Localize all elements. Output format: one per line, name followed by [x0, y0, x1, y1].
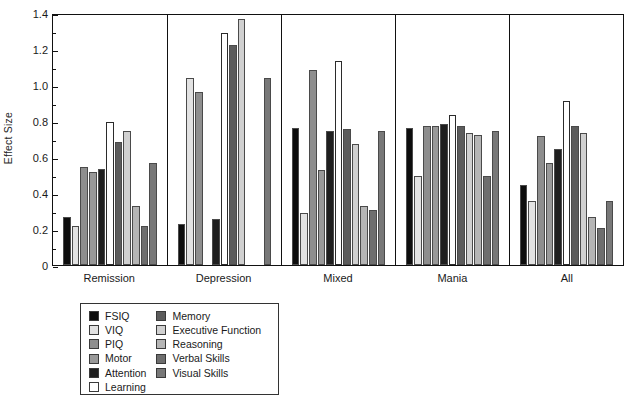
y-tick-label: 1.2	[22, 45, 48, 56]
bar-remission-visual-skills	[149, 163, 157, 265]
legend-swatch-icon	[89, 311, 99, 321]
y-tick-minor	[53, 177, 56, 178]
bar-all-executive-function	[580, 133, 588, 265]
bar-all-motor	[546, 163, 554, 265]
legend-swatch-icon	[89, 354, 99, 364]
y-tick-label: 0.8	[22, 117, 48, 128]
legend-item-attention: Attention	[89, 366, 146, 380]
bar-mixed-attention	[326, 131, 334, 265]
x-group-label: Depression	[166, 272, 280, 284]
bar-mixed-learning	[335, 61, 343, 265]
bar-remission-verbal-skills	[141, 226, 149, 265]
legend-item-piq: PIQ	[89, 337, 146, 351]
plot-axes	[52, 14, 624, 266]
legend-item-motor: Motor	[89, 352, 146, 366]
legend-swatch-icon	[156, 368, 166, 378]
plot-area-wrapper: Effect Size 00.20.40.60.81.01.21.4 Remis…	[0, 0, 631, 300]
bar-mixed-fsiq	[292, 128, 300, 266]
bar-mania-reasoning	[474, 135, 482, 265]
bar-mania-attention	[440, 124, 448, 265]
x-group-label: Remission	[52, 272, 166, 284]
y-tick-major	[53, 87, 58, 88]
bar-remission-viq	[72, 226, 80, 265]
bar-mixed-motor	[318, 170, 326, 265]
legend-swatch-icon	[156, 325, 166, 335]
bar-mania-executive-function	[466, 133, 474, 265]
legend-item-memory: Memory	[156, 309, 261, 323]
bar-mixed-viq	[300, 213, 308, 265]
bar-group-remission	[53, 15, 167, 265]
legend-swatch-icon	[156, 339, 166, 349]
legend-label: VIQ	[105, 325, 123, 336]
x-group-label: All	[510, 272, 624, 284]
bar-depression-executive-function	[238, 19, 246, 265]
y-tick-label: 0.2	[22, 225, 48, 236]
legend-label: Memory	[172, 311, 210, 322]
legend-label: Attention	[105, 368, 146, 379]
y-tick-label: 1.4	[22, 9, 48, 20]
legend-swatch-icon	[89, 325, 99, 335]
legend-item-visual-skills: Visual Skills	[156, 366, 261, 380]
legend-item-verbal-skills: Verbal Skills	[156, 352, 261, 366]
y-tick-minor	[53, 69, 56, 70]
bar-remission-piq	[80, 167, 88, 265]
bar-chart-figure: Effect Size 00.20.40.60.81.01.21.4 Remis…	[0, 0, 631, 410]
bar-depression-visual-skills	[264, 78, 272, 266]
bar-all-attention	[554, 149, 562, 265]
legend-item-reasoning: Reasoning	[156, 337, 261, 351]
legend-column-1: FSIQVIQPIQMotorAttentionLearning	[89, 309, 146, 394]
bar-mania-memory	[457, 126, 465, 265]
bar-mania-viq	[414, 176, 422, 265]
chart-legend: FSIQVIQPIQMotorAttentionLearningMemoryEx…	[80, 303, 279, 395]
bar-depression-learning	[221, 33, 229, 265]
bar-all-viq	[528, 201, 536, 265]
bar-mixed-visual-skills	[378, 131, 386, 265]
y-tick-major	[53, 123, 58, 124]
bar-mania-piq	[423, 126, 431, 265]
bar-remission-memory	[115, 142, 123, 265]
legend-label: Learning	[105, 382, 146, 393]
x-group-label: Mixed	[281, 272, 395, 284]
y-tick-major	[53, 15, 58, 16]
bar-mixed-verbal-skills	[369, 210, 377, 265]
legend-label: Visual Skills	[172, 368, 228, 379]
legend-item-executive-function: Executive Function	[156, 323, 261, 337]
bar-remission-reasoning	[132, 206, 140, 265]
bar-mixed-memory	[343, 129, 351, 265]
bar-mania-visual-skills	[492, 131, 500, 265]
legend-label: Reasoning	[172, 339, 222, 350]
bar-depression-attention	[212, 219, 220, 265]
y-tick-minor	[53, 213, 56, 214]
bar-all-learning	[563, 101, 571, 265]
bar-group-mixed	[281, 15, 395, 265]
y-tick-label: 1.0	[22, 81, 48, 92]
bar-remission-learning	[106, 122, 114, 265]
y-tick-major	[53, 159, 58, 160]
legend-item-fsiq: FSIQ	[89, 309, 146, 323]
bar-group-all	[509, 15, 623, 265]
y-tick-minor	[53, 105, 56, 106]
legend-swatch-icon	[89, 368, 99, 378]
legend-label: FSIQ	[105, 311, 130, 322]
legend-label: PIQ	[105, 339, 123, 350]
legend-column-2: MemoryExecutive FunctionReasoningVerbal …	[156, 309, 261, 394]
bar-mania-learning	[449, 115, 457, 265]
bar-all-piq	[537, 136, 545, 265]
legend-item-learning: Learning	[89, 380, 146, 394]
bar-group-mania	[395, 15, 509, 265]
bar-depression-piq	[195, 92, 203, 265]
bar-all-verbal-skills	[597, 228, 605, 266]
bar-mania-verbal-skills	[483, 176, 491, 265]
bar-depression-memory	[229, 45, 237, 265]
bar-all-memory	[571, 126, 579, 265]
legend-label: Executive Function	[172, 325, 261, 336]
y-tick-label: 0	[22, 261, 48, 272]
bar-mania-fsiq	[406, 128, 414, 266]
bar-all-reasoning	[588, 217, 596, 265]
bar-mixed-piq	[309, 70, 317, 265]
y-tick-major	[53, 267, 58, 268]
legend-swatch-icon	[156, 311, 166, 321]
y-tick-major	[53, 195, 58, 196]
y-tick-major	[53, 231, 58, 232]
bar-remission-attention	[98, 169, 106, 265]
